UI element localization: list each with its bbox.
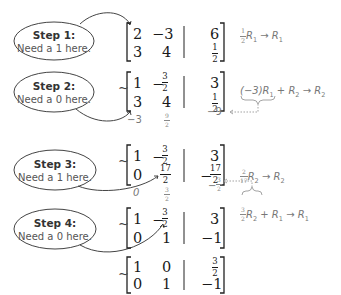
m1-r2-a: 3 [133,45,142,60]
m3-r2-a: 0 [133,168,142,183]
m3-work-a: 0 [133,188,139,198]
equiv-tilde: ~ [118,153,129,168]
step4-bubble: Step 4: Need a 0 here. [14,216,96,244]
equiv-tilde: ~ [118,80,129,95]
m4-operation: 32R2 + R1 → R1 [240,207,309,222]
m2-r1-c: 3 [210,76,219,91]
m5-r1-a: 1 [133,260,142,275]
step3-note: Need a 1 here. [14,171,96,185]
m2-r2-a: 3 [133,95,142,110]
step2-title: Step 2: [14,79,94,93]
m4-r1-a: 1 [133,212,142,227]
step2-note: Need a 0 here. [14,93,94,107]
step4-title: Step 4: [14,216,96,230]
m2-operation: (−3)R1 + R2 → R2 [240,86,325,99]
m1-r1-a: 2 [133,27,142,42]
equiv-tilde: ~ [118,266,129,281]
m5-r2-a: 0 [133,277,142,292]
step1-note: Need a 1 here. [14,42,94,56]
m3-r2-b: 172 [160,164,171,184]
m2-work-c: −9 [207,107,222,117]
m3-work-b: 32 [164,187,170,202]
m1-r2-c: 12 [212,43,218,63]
m5-r1-b: 0 [162,260,171,275]
m2-work-b: 92 [164,113,170,128]
m1-r1-b: −3 [152,27,173,42]
m4-r2-a: 0 [133,231,142,246]
m3-operation: 217R2 → R2 [240,169,285,184]
m4-r1-b: 32 [162,208,168,228]
m4-r1-c: 3 [210,212,219,227]
step1-bubble: Step 1: Need a 1 here. [14,28,94,56]
m5-r1-c: 32 [212,257,218,277]
m2-r1-b: 32 [162,72,168,92]
m1-r2-b: 4 [162,45,171,60]
m1-r1-c: 6 [210,27,219,42]
step3-bubble: Step 3: Need a 1 here. [14,157,96,185]
m1-operation: 12R1 → R1 [240,28,283,44]
m4-r2-b: 1 [162,231,171,246]
m3-r1-b: 32 [162,145,168,165]
m3-r1-c: 3 [210,149,219,164]
m4-r2-c: −1 [201,231,222,246]
step1-title: Step 1: [14,28,94,42]
m3-r1-a: 1 [133,149,142,164]
step3-title: Step 3: [14,157,96,171]
step2-bubble: Step 2: Need a 0 here. [14,79,94,107]
row-reduction-figure: Step 1: Need a 1 here. Step 2: Need a 0 … [0,0,341,295]
m2-r2-b: 4 [162,95,171,110]
m2-work-a: −3 [127,115,142,125]
equiv-tilde: ~ [118,216,129,231]
step4-note: Need a 0 here. [14,230,96,244]
m3-work-c: 32 [216,177,222,192]
m5-r2-c: −1 [201,277,222,292]
m5-r2-b: 1 [162,277,171,292]
m2-r1-a: 1 [133,76,142,91]
